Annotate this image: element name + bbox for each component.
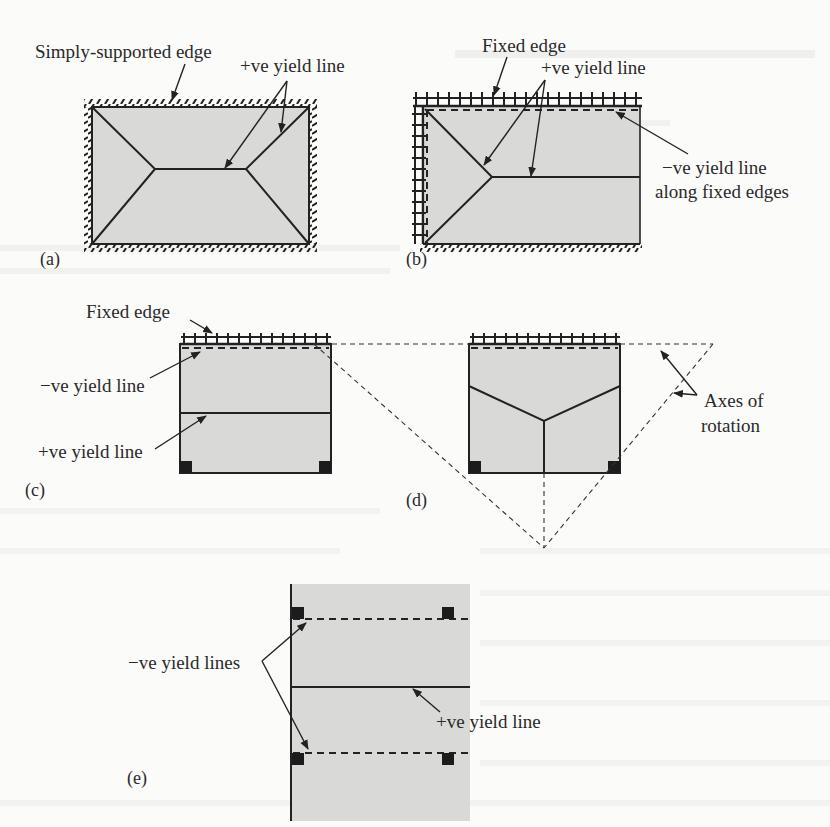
label-positive-yield-line: +ve yield line bbox=[240, 55, 345, 76]
column-e-tr bbox=[442, 607, 454, 619]
label-negative-yield-lines-e: −ve yield lines bbox=[128, 652, 240, 673]
yield-line-diagram: Simply-supported edge +ve yield line (a) bbox=[0, 0, 830, 827]
simply-supported-hatch-right bbox=[309, 107, 317, 244]
column-e-bl bbox=[292, 753, 304, 765]
caption-e: (e) bbox=[127, 768, 147, 789]
label-negative-yield-line-c: −ve yield line bbox=[40, 375, 145, 396]
label-fixed-edge-c: Fixed edge bbox=[86, 301, 170, 322]
panel-c: Fixed edge −ve yield line +ve yield line… bbox=[25, 301, 331, 501]
panel-e: −ve yield lines +ve yield line (e) bbox=[127, 584, 541, 821]
label-rotation: rotation bbox=[701, 415, 761, 436]
simply-supported-hatch-bottom-b bbox=[420, 244, 642, 252]
simply-supported-hatch-bottom bbox=[84, 244, 317, 252]
label-axes-of: Axes of bbox=[704, 390, 764, 411]
caption-a: (a) bbox=[40, 249, 60, 270]
caption-b: (b) bbox=[406, 249, 427, 270]
label-simply-supported-edge: Simply-supported edge bbox=[35, 41, 212, 62]
label-positive-yield-line-b: +ve yield line bbox=[541, 57, 646, 78]
panel-a: Simply-supported edge +ve yield line (a) bbox=[35, 41, 345, 270]
label-positive-yield-line-c: +ve yield line bbox=[38, 441, 143, 462]
label-negative-yield-line-b: −ve yield line bbox=[662, 157, 767, 178]
label-fixed-edge-b: Fixed edge bbox=[482, 35, 566, 56]
panel-d: Axes of rotation (d) bbox=[314, 333, 764, 548]
label-along-fixed-edges: along fixed edges bbox=[655, 181, 789, 202]
column-d-left bbox=[469, 461, 481, 473]
caption-d: (d) bbox=[406, 490, 427, 511]
column-c-right bbox=[319, 461, 331, 473]
simply-supported-hatch-left bbox=[84, 107, 92, 244]
label-positive-yield-line-e: +ve yield line bbox=[436, 711, 541, 732]
column-e-tl bbox=[292, 607, 304, 619]
column-e-br bbox=[442, 753, 454, 765]
caption-c: (c) bbox=[25, 480, 45, 501]
column-c-left bbox=[180, 461, 192, 473]
panel-b: Fixed edge +ve yield line −ve yield line… bbox=[406, 35, 789, 270]
simply-supported-hatch-top bbox=[84, 99, 317, 107]
